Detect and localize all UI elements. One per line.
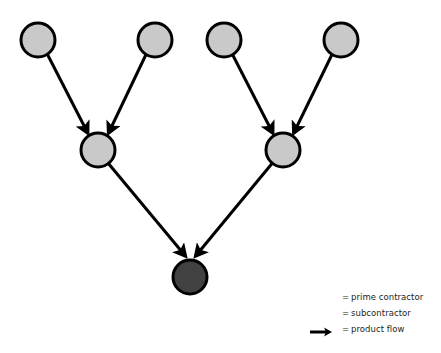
edge-sub-top-2-to-sub-mid-left <box>109 55 146 133</box>
legend-label-prime-contractor: prime contractor <box>351 290 423 304</box>
legend-equals-0: = <box>342 290 349 304</box>
legend-item-subcontractor: = subcontractor <box>305 305 441 321</box>
light-circle-icon <box>312 309 320 317</box>
legend-label-product-flow: product flow <box>351 322 405 336</box>
legend-item-product-flow: = product flow <box>305 321 441 337</box>
node-group <box>21 23 358 294</box>
edge-sub-mid-right-to-prime <box>196 164 272 256</box>
edge-sub-mid-left-to-prime <box>108 163 185 256</box>
node-sub-top-4[interactable] <box>324 23 358 57</box>
diagram-canvas: = prime contractor = subcontractor = pro… <box>0 0 441 353</box>
edge-sub-top-3-to-sub-mid-right <box>233 55 273 133</box>
node-sub-mid-right[interactable] <box>266 133 300 167</box>
legend-equals-2: = <box>342 322 349 336</box>
node-prime-contractor[interactable] <box>173 260 207 294</box>
edge-group-upper <box>48 55 333 133</box>
legend-item-prime-contractor: = prime contractor <box>305 289 441 305</box>
legend: = prime contractor = subcontractor = pro… <box>305 289 441 345</box>
arrow-icon <box>309 323 333 335</box>
edge-sub-top-4-to-sub-mid-right <box>294 55 332 133</box>
node-sub-top-2[interactable] <box>138 23 172 57</box>
legend-equals-1: = <box>342 306 349 320</box>
edge-group-lower <box>108 163 272 256</box>
dark-circle-icon <box>312 293 320 301</box>
node-sub-top-3[interactable] <box>207 23 241 57</box>
edge-sub-top-1-to-sub-mid-left <box>48 55 88 133</box>
node-sub-top-1[interactable] <box>21 23 55 57</box>
node-sub-mid-left[interactable] <box>81 133 115 167</box>
legend-label-subcontractor: subcontractor <box>351 306 411 320</box>
